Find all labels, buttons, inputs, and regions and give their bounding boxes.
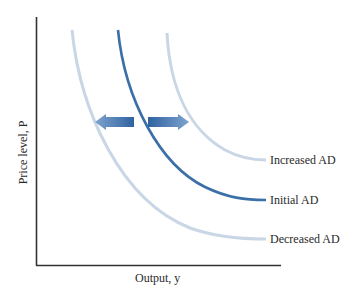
shift-right-arrow-icon [148, 114, 189, 130]
initial-ad-curve [118, 30, 266, 200]
x-axis-label: Output, y [135, 271, 180, 286]
ad-diagram [0, 0, 356, 297]
shift-left-arrow-icon [95, 114, 134, 130]
increased-ad-label: Increased AD [270, 153, 336, 168]
y-axis-label: Price level, P [16, 108, 31, 198]
increased-ad-curve [167, 33, 266, 160]
decreased-ad-label: Decreased AD [270, 232, 340, 247]
initial-ad-label: Initial AD [270, 193, 318, 208]
